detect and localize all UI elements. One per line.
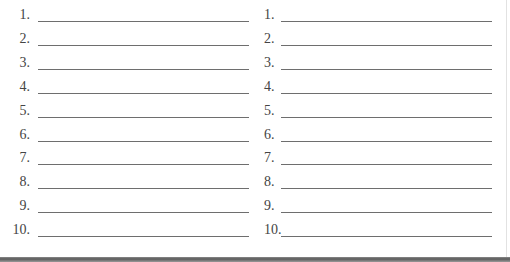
right-list-item: 8. (255, 174, 505, 194)
blank-answer-line[interactable] (38, 141, 249, 142)
blank-answer-line[interactable] (281, 21, 492, 22)
left-list-item: 9. (0, 198, 255, 218)
item-number: 5. (264, 103, 275, 119)
blank-answer-line[interactable] (281, 164, 492, 165)
left-list-item: 5. (0, 103, 255, 123)
item-number: 9. (20, 198, 31, 214)
blank-answer-line[interactable] (281, 93, 492, 94)
right-list-item: 10. (255, 222, 505, 242)
item-number: 8. (264, 174, 275, 190)
blank-answer-line[interactable] (38, 164, 249, 165)
item-number: 7. (264, 150, 275, 166)
item-number: 5. (20, 103, 31, 119)
blank-answer-line[interactable] (38, 21, 249, 22)
left-list-item: 8. (0, 174, 255, 194)
item-number: 2. (264, 31, 275, 47)
blank-answer-line[interactable] (281, 236, 492, 237)
left-list-item: 7. (0, 150, 255, 170)
item-number: 1. (20, 7, 31, 23)
blank-answer-line[interactable] (281, 117, 492, 118)
left-list-item: 4. (0, 79, 255, 99)
page-bottom-border (0, 257, 510, 262)
item-number: 4. (264, 79, 275, 95)
left-list-item: 10. (0, 222, 255, 242)
blank-answer-line[interactable] (38, 45, 249, 46)
blank-answer-line[interactable] (38, 69, 249, 70)
item-number: 3. (20, 55, 31, 71)
item-number: 8. (20, 174, 31, 190)
worksheet-page: 1.2.3.4.5.6.7.8.9.10. 1.2.3.4.5.6.7.8.9.… (0, 0, 507, 257)
blank-answer-line[interactable] (281, 188, 492, 189)
left-list-item: 3. (0, 55, 255, 75)
blank-answer-line[interactable] (38, 236, 249, 237)
blank-answer-line[interactable] (38, 212, 249, 213)
item-number: 6. (264, 127, 275, 143)
blank-answer-line[interactable] (281, 212, 492, 213)
right-list-item: 7. (255, 150, 505, 170)
right-list-item: 5. (255, 103, 505, 123)
item-number: 3. (264, 55, 275, 71)
right-list-item: 9. (255, 198, 505, 218)
blank-answer-line[interactable] (281, 69, 492, 70)
left-list-item: 6. (0, 127, 255, 147)
blank-answer-line[interactable] (38, 188, 249, 189)
blank-answer-line[interactable] (38, 93, 249, 94)
right-list-item: 2. (255, 31, 505, 51)
blank-answer-line[interactable] (281, 141, 492, 142)
left-list-item: 2. (0, 31, 255, 51)
right-list-item: 4. (255, 79, 505, 99)
right-list-item: 3. (255, 55, 505, 75)
item-number: 10. (264, 222, 282, 238)
right-list-item: 1. (255, 7, 505, 27)
item-number: 1. (264, 7, 275, 23)
item-number: 9. (264, 198, 275, 214)
item-number: 2. (20, 31, 31, 47)
item-number: 7. (20, 150, 31, 166)
blank-answer-line[interactable] (38, 117, 249, 118)
right-list-item: 6. (255, 127, 505, 147)
blank-answer-line[interactable] (281, 45, 492, 46)
item-number: 4. (20, 79, 31, 95)
left-list-item: 1. (0, 7, 255, 27)
item-number: 6. (20, 127, 31, 143)
item-number: 10. (13, 222, 31, 238)
